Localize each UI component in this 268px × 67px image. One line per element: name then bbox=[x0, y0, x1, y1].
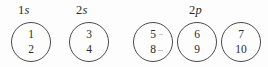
electron-number-bottom: 10 bbox=[235, 42, 247, 57]
orbital-circle-2s: 3 4 bbox=[69, 22, 109, 62]
group-label-2p-subshell: p bbox=[195, 3, 201, 17]
electron-number-top: 6 bbox=[194, 27, 200, 42]
electron-number-bottom: 8 bbox=[150, 42, 156, 57]
electron-number-top: 5 bbox=[150, 27, 156, 42]
group-label-2s-subshell: s bbox=[82, 3, 87, 17]
scan-artifact bbox=[158, 50, 163, 51]
electron-number-bottom: 4 bbox=[86, 42, 92, 57]
electron-number-top: 7 bbox=[238, 27, 244, 42]
group-label-1s: 1s bbox=[18, 4, 30, 17]
scan-artifact bbox=[159, 34, 163, 35]
group-label-2s: 2s bbox=[76, 4, 88, 17]
electron-number-bottom: 9 bbox=[194, 42, 200, 57]
orbital-diagram: 1s 2s 2p 1 2 3 4 5 8 6 9 7 10 bbox=[0, 0, 268, 67]
group-label-2p: 2p bbox=[189, 4, 202, 17]
electron-number-bottom: 2 bbox=[28, 42, 34, 57]
electron-number-top: 1 bbox=[28, 27, 34, 42]
group-label-1s-subshell: s bbox=[24, 3, 29, 17]
orbital-circle-1s: 1 2 bbox=[11, 22, 51, 62]
orbital-circle-2p-1: 5 8 bbox=[133, 22, 173, 62]
orbital-circle-2p-3: 7 10 bbox=[221, 22, 261, 62]
electron-number-top: 3 bbox=[86, 27, 92, 42]
orbital-circle-2p-2: 6 9 bbox=[177, 22, 217, 62]
